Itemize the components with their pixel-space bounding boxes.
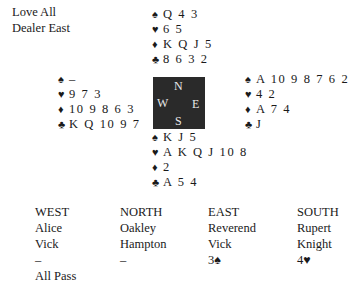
west-clubs: ♣K Q 10 9 7 [58, 117, 141, 132]
south-diamonds: ♦2 [152, 160, 248, 175]
west-hearts: ♥9 7 3 [58, 87, 141, 102]
seat-header: EAST [208, 204, 256, 220]
east-spades: ♠A 10 9 8 7 6 2 [245, 72, 349, 87]
north-hearts: ♥6 5 [152, 22, 213, 37]
bidding-column-north: NORTH Oakley Hampton – [120, 204, 167, 268]
bid: 4♥ [297, 252, 339, 268]
seat-header: NORTH [120, 204, 167, 220]
south-hand: ♠K J 5 ♥A K Q J 10 8 ♦2 ♣A 5 4 [152, 130, 248, 190]
north-clubs: ♣8 6 3 2 [152, 52, 213, 67]
club-icon: ♣ [58, 117, 69, 132]
north-diamonds: ♦K Q J 5 [152, 37, 213, 52]
bid: – [120, 252, 167, 268]
spade-icon: ♠ [58, 72, 69, 87]
north-spades: ♠Q 4 3 [152, 7, 213, 22]
dealer-label: Dealer East [12, 21, 70, 36]
compass-west: W [157, 97, 168, 109]
spade-icon: ♠ [152, 7, 163, 22]
diamond-icon: ♦ [58, 102, 69, 117]
west-diamonds: ♦10 9 8 6 3 [58, 102, 141, 117]
east-clubs: ♣J [245, 117, 349, 132]
east-hand: ♠A 10 9 8 7 6 2 ♥4 2 ♦A 7 4 ♣J [245, 72, 349, 132]
player-last-name: Vick [208, 236, 256, 252]
south-hearts: ♥A K Q J 10 8 [152, 145, 248, 160]
heart-icon: ♥ [152, 22, 163, 37]
bidding-column-west: WEST Alice Vick – All Pass [35, 204, 76, 284]
player-first-name: Oakley [120, 220, 167, 236]
player-last-name: Vick [35, 236, 76, 252]
bidding-column-south: SOUTH Rupert Knight 4♥ [297, 204, 339, 268]
vulnerability-label: Love All [12, 5, 56, 20]
east-hearts: ♥4 2 [245, 87, 349, 102]
west-spades: ♠– [58, 72, 141, 87]
compass-south: S [175, 115, 182, 127]
heart-icon: ♥ [152, 145, 163, 160]
diamond-icon: ♦ [152, 37, 163, 52]
player-last-name: Knight [297, 236, 339, 252]
south-spades: ♠K J 5 [152, 130, 248, 145]
club-icon: ♣ [152, 52, 163, 67]
spade-icon: ♠ [245, 72, 256, 87]
player-last-name: Hampton [120, 236, 167, 252]
compass-east: E [192, 98, 199, 110]
compass-north: N [174, 80, 183, 92]
bid: All Pass [35, 268, 76, 284]
club-icon: ♣ [152, 175, 163, 190]
bidding-column-east: EAST Reverend Vick 3♠ [208, 204, 256, 268]
diamond-icon: ♦ [152, 160, 163, 175]
heart-icon: ♥ [245, 87, 256, 102]
south-clubs: ♣A 5 4 [152, 175, 248, 190]
seat-header: WEST [35, 204, 76, 220]
diamond-icon: ♦ [245, 102, 256, 117]
compass-table: N W E S [153, 77, 205, 129]
player-first-name: Alice [35, 220, 76, 236]
north-hand: ♠Q 4 3 ♥6 5 ♦K Q J 5 ♣8 6 3 2 [152, 7, 213, 67]
east-diamonds: ♦A 7 4 [245, 102, 349, 117]
player-first-name: Rupert [297, 220, 339, 236]
seat-header: SOUTH [297, 204, 339, 220]
west-hand: ♠– ♥9 7 3 ♦10 9 8 6 3 ♣K Q 10 9 7 [58, 72, 141, 132]
player-first-name: Reverend [208, 220, 256, 236]
bid: 3♠ [208, 252, 256, 268]
bid: – [35, 252, 76, 268]
spade-icon: ♠ [152, 130, 163, 145]
heart-icon: ♥ [58, 87, 69, 102]
